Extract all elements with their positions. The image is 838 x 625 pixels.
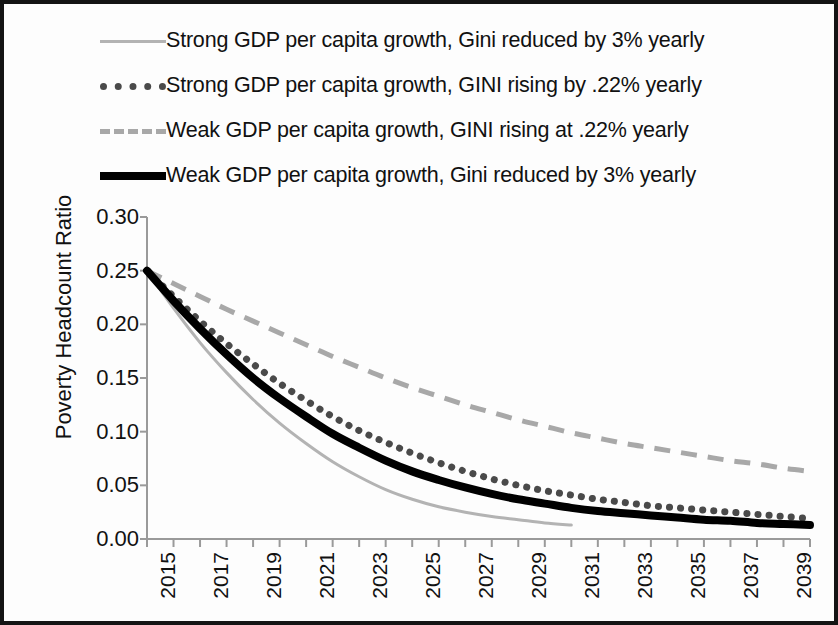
- plot-area: Poverty Headcount Ratio 0.300.250.200.15…: [4, 4, 838, 625]
- chart-series-line: [147, 271, 810, 525]
- chart-series-line: [147, 271, 571, 525]
- chart-canvas: [4, 4, 838, 625]
- chart-figure: Strong GDP per capita growth, Gini reduc…: [0, 0, 838, 625]
